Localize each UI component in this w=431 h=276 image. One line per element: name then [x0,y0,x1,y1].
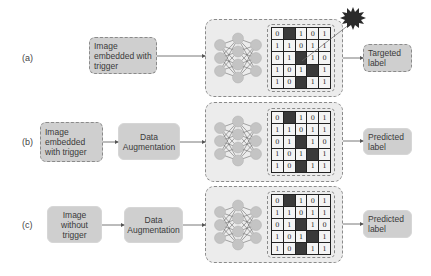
neuron-node [251,40,262,51]
neuron-node [233,59,244,70]
neuron-node [233,226,244,237]
neuron-node [233,33,244,44]
neuron-node [215,233,226,244]
neuron-node [233,200,244,211]
neural-network-icon [215,200,262,250]
neuron-node [215,66,226,77]
connectors-and-networks [0,0,431,276]
neuron-node [233,46,244,57]
neuron-node [233,72,244,83]
trigger-burst-icon [340,7,366,30]
neuron-node [233,129,244,140]
neuron-node [215,123,226,134]
trigger-pointer-line [302,24,350,61]
neuron-node [215,53,226,64]
neuron-node [251,149,262,160]
neuron-node [233,155,244,166]
neuron-node [251,66,262,77]
neuron-node [233,239,244,250]
neuron-node [251,207,262,218]
neuron-node [251,123,262,134]
neuron-node [233,142,244,153]
neuron-node [215,220,226,231]
neuron-node [233,213,244,224]
neuron-node [251,136,262,147]
neuron-node [215,149,226,160]
neuron-node [215,207,226,218]
neuron-node [251,53,262,64]
neuron-node [215,136,226,147]
neuron-node [251,220,262,231]
neuron-node [233,116,244,127]
neural-network-icon [215,116,262,166]
neural-network-icon [215,33,262,83]
neuron-node [251,233,262,244]
neuron-node [215,40,226,51]
